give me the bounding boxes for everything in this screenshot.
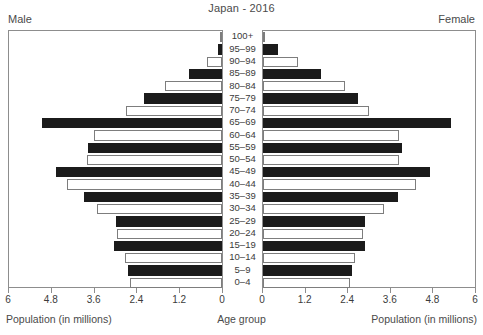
bar-row <box>9 68 222 80</box>
bar-row <box>9 240 222 252</box>
age-group-label: 85–89 <box>223 67 262 79</box>
male-plot-panel <box>8 30 223 288</box>
bar-row <box>9 31 222 43</box>
bar-male-1014 <box>125 253 222 263</box>
bar-female-2529 <box>263 216 365 226</box>
axis-tick <box>475 288 476 293</box>
bar-row <box>9 264 222 276</box>
axis-tick <box>51 288 52 293</box>
bar-row <box>263 154 475 166</box>
bar-female-4044 <box>263 179 416 189</box>
bar-male-4044 <box>67 179 222 189</box>
female-x-axis: 01.22.43.64.86 <box>262 288 476 306</box>
age-group-label: 5–9 <box>223 263 262 275</box>
bar-row <box>263 240 475 252</box>
bar-row <box>263 56 475 68</box>
age-group-label: 100+ <box>223 30 262 42</box>
age-group-label: 30–34 <box>223 202 262 214</box>
bar-male-5559 <box>88 143 222 153</box>
axis-tick <box>136 288 137 293</box>
axis-tick <box>8 288 9 293</box>
female-axis-caption: Population (in millions) <box>371 313 477 325</box>
axis-tick-label: 4.8 <box>425 294 439 305</box>
bar-row <box>9 178 222 190</box>
bar-female-7579 <box>263 93 358 103</box>
age-group-label: 70–74 <box>223 104 262 116</box>
age-group-label: 35–39 <box>223 190 262 202</box>
bar-female-8084 <box>263 81 345 91</box>
age-group-axis: 100+95–9990–9485–8980–8475–7970–7465–696… <box>223 30 262 288</box>
age-group-label: 15–19 <box>223 239 262 251</box>
bar-row <box>263 129 475 141</box>
age-group-label: 65–69 <box>223 116 262 128</box>
axis-tick <box>262 288 263 293</box>
axis-tick-label: 3.6 <box>87 294 101 305</box>
bar-row <box>263 43 475 55</box>
female-panel-label: Female <box>438 13 475 25</box>
age-group-label: 50–54 <box>223 153 262 165</box>
axis-tick <box>179 288 180 293</box>
bar-male-9094 <box>207 57 222 67</box>
bar-row <box>9 191 222 203</box>
bar-row <box>9 228 222 240</box>
bar-female-3034 <box>263 204 384 214</box>
axis-tick-label: 6 <box>5 294 11 305</box>
bar-male-7579 <box>144 93 222 103</box>
bar-row <box>9 215 222 227</box>
bar-female-8589 <box>263 69 321 79</box>
axis-tick <box>390 288 391 293</box>
age-group-label: 80–84 <box>223 79 262 91</box>
bar-female-1014 <box>263 253 355 263</box>
age-group-label: 60–64 <box>223 128 262 140</box>
axis-tick <box>305 288 306 293</box>
axis-tick-label: 6 <box>472 294 478 305</box>
male-panel-label: Male <box>8 13 32 25</box>
bar-row <box>263 228 475 240</box>
male-x-axis: 64.83.62.41.20 <box>8 288 223 306</box>
bar-row <box>9 92 222 104</box>
female-bar-rows <box>263 31 475 287</box>
bar-row <box>9 203 222 215</box>
bar-row <box>9 142 222 154</box>
age-group-label: 20–24 <box>223 227 262 239</box>
bar-male-8084 <box>165 81 223 91</box>
axis-tick-label: 1.2 <box>298 294 312 305</box>
bar-row <box>263 31 475 43</box>
axis-tick-label: 0 <box>259 294 265 305</box>
axis-tick-label: 3.6 <box>383 294 397 305</box>
bar-row <box>263 92 475 104</box>
bar-row <box>263 80 475 92</box>
bar-female-3539 <box>263 192 398 202</box>
bar-male-6064 <box>94 130 222 140</box>
bar-female-59 <box>263 265 352 275</box>
bar-row <box>263 264 475 276</box>
bar-male-5054 <box>87 155 222 165</box>
bar-male-3034 <box>97 204 222 214</box>
bar-row <box>9 80 222 92</box>
axis-tick <box>94 288 95 293</box>
bar-row <box>9 154 222 166</box>
bar-male-04 <box>130 278 222 288</box>
bar-male-2024 <box>117 229 222 239</box>
axis-tick <box>222 288 223 293</box>
bar-male-2529 <box>116 216 223 226</box>
bar-female-5054 <box>263 155 399 165</box>
age-group-label: 25–29 <box>223 214 262 226</box>
bar-male-100+ <box>220 32 222 42</box>
bar-female-4549 <box>263 167 430 177</box>
age-group-label: 0–4 <box>223 276 262 288</box>
axis-tick-label: 1.2 <box>172 294 186 305</box>
bar-female-9094 <box>263 57 298 67</box>
age-group-label: 95–99 <box>223 42 262 54</box>
age-group-label: 10–14 <box>223 251 262 263</box>
bar-female-9599 <box>263 44 278 54</box>
bar-male-7074 <box>126 106 222 116</box>
bar-row <box>263 142 475 154</box>
male-bar-rows <box>9 31 222 287</box>
bar-male-8589 <box>189 69 222 79</box>
bar-row <box>9 252 222 264</box>
bar-male-59 <box>128 265 222 275</box>
bar-row <box>9 56 222 68</box>
bar-row <box>263 166 475 178</box>
bar-female-6064 <box>263 130 399 140</box>
